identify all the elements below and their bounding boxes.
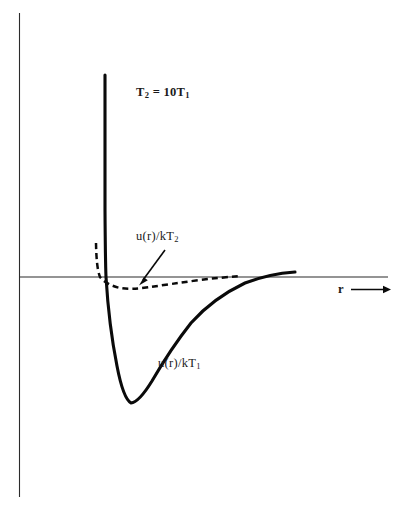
curve-label-t1-main: u(r)/kT bbox=[158, 356, 196, 370]
temperature-ratio-mid: = 10T bbox=[149, 85, 185, 99]
temperature-ratio-label: T2 = 10T1 bbox=[136, 86, 190, 99]
curve-u-over-kT1 bbox=[105, 75, 295, 403]
x-axis-label-r: r bbox=[338, 283, 344, 296]
leader-arrow-head-t2 bbox=[139, 277, 148, 285]
curve-label-u-over-kT1: u(r)/kT1 bbox=[158, 357, 201, 370]
temperature-ratio-main: T bbox=[136, 85, 145, 99]
curve-label-u-over-kT2: u(r)/kT2 bbox=[136, 230, 179, 243]
potential-plot-figure: T2 = 10T1 u(r)/kT2 u(r)/kT1 r bbox=[0, 0, 401, 511]
curve-u-over-kT2 bbox=[96, 243, 240, 289]
temperature-ratio-sub-2: 1 bbox=[185, 90, 190, 100]
plot-canvas bbox=[0, 0, 401, 511]
curve-label-t2-sub: 2 bbox=[174, 234, 179, 244]
leader-arrow-line-t2 bbox=[143, 250, 165, 280]
curve-label-t2-main: u(r)/kT bbox=[136, 229, 174, 243]
r-direction-arrow-head bbox=[383, 286, 391, 293]
curve-label-t1-sub: 1 bbox=[196, 361, 201, 371]
